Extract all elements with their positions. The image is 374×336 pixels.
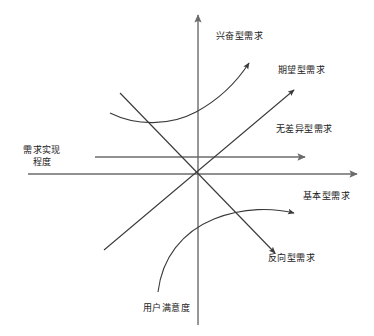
y-axis-label-line-1: 需求实现 bbox=[12, 144, 72, 156]
label-performance-requirement: 期望型需求 bbox=[278, 64, 325, 76]
label-must-be-requirement: 基本型需求 bbox=[303, 190, 350, 202]
x-axis-label: 用户满意度 bbox=[143, 302, 190, 314]
must-be-requirement-curve bbox=[158, 209, 294, 292]
kano-model-chart-canvas bbox=[0, 0, 374, 336]
label-indifferent-requirement: 无差异型需求 bbox=[276, 123, 332, 135]
kano-model-figure: 兴奋型需求 期望型需求 无差异型需求 基本型需求 反向型需求 需求实现 程度 用… bbox=[0, 0, 374, 336]
label-reverse-requirement: 反向型需求 bbox=[268, 252, 315, 264]
label-attractive-requirement: 兴奋型需求 bbox=[216, 30, 263, 42]
y-axis-label: 需求实现 程度 bbox=[12, 144, 72, 168]
y-axis-label-line-2: 程度 bbox=[12, 156, 72, 168]
attractive-requirement-curve bbox=[110, 63, 249, 123]
